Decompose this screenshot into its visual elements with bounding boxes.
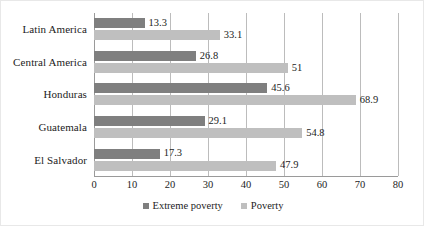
bar-group: 17.347.9: [94, 143, 398, 176]
bar-value-label: 54.8: [306, 128, 324, 139]
axis-tick-label: 20: [165, 179, 176, 190]
bar-poverty[interactable]: [94, 63, 288, 73]
axis-tick-label: 40: [241, 179, 252, 190]
bar-row: 26.8: [94, 51, 398, 61]
gridline: [398, 13, 399, 176]
legend-label: Poverty: [251, 200, 284, 211]
value-axis: 01020304050607080: [94, 177, 398, 193]
bar-value-label: 45.6: [271, 83, 289, 94]
bar-row: 45.6: [94, 83, 398, 93]
bar-row: 13.3: [94, 18, 398, 28]
bar-value-label: 47.9: [280, 160, 298, 171]
bar-poverty[interactable]: [94, 128, 302, 138]
bar-extreme-poverty[interactable]: [94, 18, 145, 28]
category-label: Guatemala: [1, 111, 94, 144]
plot-area: 13.333.126.85145.668.929.154.817.347.9: [94, 13, 398, 176]
legend-entry[interactable]: Extreme poverty: [143, 200, 223, 211]
bar-extreme-poverty[interactable]: [94, 51, 196, 61]
bar-row: 29.1: [94, 116, 398, 126]
bar-row: 47.9: [94, 161, 398, 171]
legend-entry[interactable]: Poverty: [241, 200, 284, 211]
bar-row: 68.9: [94, 95, 398, 105]
category-label: El Salvador: [1, 143, 94, 176]
bar-value-label: 51: [292, 63, 303, 74]
category-label: Latin America: [1, 13, 94, 46]
axis-tick-label: 80: [393, 179, 404, 190]
bar-poverty[interactable]: [94, 161, 276, 171]
bar-row: 54.8: [94, 128, 398, 138]
bar-extreme-poverty[interactable]: [94, 116, 205, 126]
bars-layer: 13.333.126.85145.668.929.154.817.347.9: [94, 13, 398, 176]
axis-tick-label: 10: [127, 179, 138, 190]
legend-label: Extreme poverty: [153, 200, 223, 211]
legend-swatch-icon: [241, 203, 247, 209]
bar-row: 33.1: [94, 30, 398, 40]
bar-group: 29.154.8: [94, 111, 398, 144]
legend-swatch-icon: [143, 203, 149, 209]
bar-value-label: 68.9: [360, 95, 378, 106]
bar-value-label: 13.3: [149, 18, 167, 29]
bar-group: 13.333.1: [94, 13, 398, 46]
bar-extreme-poverty[interactable]: [94, 149, 160, 159]
axis-tick-label: 30: [203, 179, 214, 190]
bar-group: 26.851: [94, 46, 398, 79]
bar-poverty[interactable]: [94, 30, 220, 40]
axis-tick-label: 70: [355, 179, 366, 190]
bar-row: 17.3: [94, 149, 398, 159]
bar-value-label: 26.8: [200, 51, 218, 62]
bar-chart-figure: Latin AmericaCentral AmericaHondurasGuat…: [0, 0, 424, 226]
category-label: Central America: [1, 46, 94, 79]
bar-value-label: 17.3: [164, 148, 182, 159]
bar-poverty[interactable]: [94, 95, 356, 105]
category-label: Honduras: [1, 78, 94, 111]
axis-tick-label: 50: [279, 179, 290, 190]
bar-row: 51: [94, 63, 398, 73]
bar-extreme-poverty[interactable]: [94, 83, 267, 93]
bar-group: 45.668.9: [94, 78, 398, 111]
axis-tick-label: 60: [317, 179, 328, 190]
axis-tick-label: 0: [91, 179, 96, 190]
bar-value-label: 29.1: [209, 116, 227, 127]
category-axis: Latin AmericaCentral AmericaHondurasGuat…: [1, 13, 94, 176]
bar-value-label: 33.1: [224, 30, 242, 41]
chart-legend: Extreme povertyPoverty: [1, 200, 424, 211]
